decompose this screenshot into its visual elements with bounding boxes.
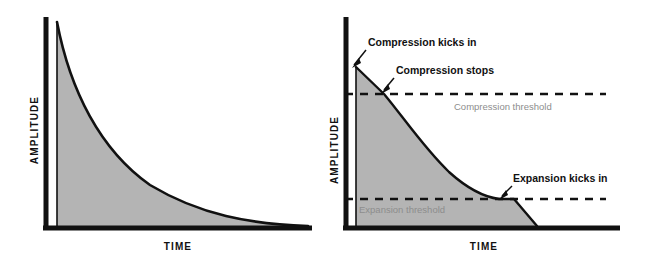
compression-threshold-label: Compression threshold (454, 101, 552, 112)
expansion-threshold-label: Expansion threshold (359, 204, 445, 215)
x-axis-label: TIME (164, 241, 192, 252)
y-axis-label: AMPLITUDE (329, 116, 340, 184)
chart-panel-uncompressed: AMPLITUDE TIME (0, 0, 324, 263)
y-axis-label: AMPLITUDE (29, 96, 40, 164)
compression-kicks-in-label: Compression kicks in (368, 36, 477, 48)
figure-container: AMPLITUDE TIME Compression kicks in (0, 0, 647, 263)
compressed-envelope-chart: Compression kicks in Compression stops C… (324, 0, 647, 263)
chart-panel-compressed: Compression kicks in Compression stops C… (324, 0, 647, 263)
expansion-kicks-in-label: Expansion kicks in (513, 172, 608, 184)
x-axis-label: TIME (470, 241, 498, 252)
uncompressed-envelope-chart: AMPLITUDE TIME (0, 0, 324, 263)
compression-stops-label: Compression stops (396, 64, 494, 76)
amplitude-envelope-area (356, 67, 537, 226)
